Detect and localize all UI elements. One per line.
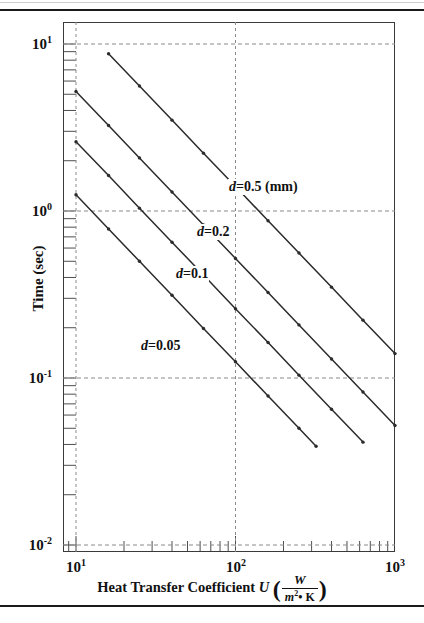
x-axis-variable: U (259, 579, 269, 595)
y-axis-tick-label: 10-1 (0, 368, 52, 387)
tick-exponent: 0 (47, 201, 52, 212)
curve-label-value: =0.05 (148, 338, 180, 353)
figure-container: 101 100 10-1 10-2 101 102 103 Time (sec)… (0, 0, 424, 623)
x-axis-minor-ticks (69, 536, 388, 552)
curve-label-prefix: d (176, 266, 183, 281)
gridlines (63, 22, 395, 552)
tick-exponent: 2 (241, 557, 246, 568)
unit-numerator: W (282, 573, 318, 587)
tick-exponent: 1 (81, 557, 86, 568)
y-axis-minor-ticks (63, 44, 76, 545)
tick-exponent: -1 (44, 368, 52, 379)
unit-den-base: m (285, 590, 294, 604)
tick-exponent: 1 (47, 34, 52, 45)
x-axis-title: Heat Transfer Coefficient U (Wm2• K) (0, 573, 424, 604)
unit-denominator: m2• K (282, 590, 318, 604)
curve-label-value: =0.1 (183, 266, 208, 281)
fraction-bar (282, 588, 318, 590)
unit-den-tail: • K (298, 590, 315, 604)
paren-close: ) (319, 576, 327, 602)
chart-svg (0, 0, 424, 623)
y-axis-tick-label: 10-2 (0, 535, 52, 554)
curve-label-value: =0.2 (204, 224, 229, 239)
y-axis-tick-label: 100 (0, 201, 52, 220)
curve-label-prefix: d (197, 224, 204, 239)
y-axis-tick-label: 101 (0, 34, 52, 53)
x-axis-title-text: Heat Transfer Coefficient (97, 579, 255, 595)
curve-label-prefix: d (141, 338, 148, 353)
paren-open: ( (273, 576, 281, 602)
curve-label-d05: d=0.5 (mm) (228, 179, 299, 195)
curve-label-d02: d=0.2 (196, 224, 230, 240)
curve-label-d01: d=0.1 (175, 266, 209, 282)
curve-label-d005: d=0.05 (140, 338, 181, 354)
curve-label-value: =0.5 (mm) (236, 179, 298, 194)
tick-exponent: 3 (400, 557, 405, 568)
x-axis-unit: (Wm2• K) (273, 573, 327, 604)
unit-fraction: Wm2• K (282, 573, 318, 604)
curve-label-prefix: d (229, 179, 236, 194)
y-axis-title: Time (sec) (30, 219, 47, 339)
tick-exponent: -2 (44, 535, 52, 546)
